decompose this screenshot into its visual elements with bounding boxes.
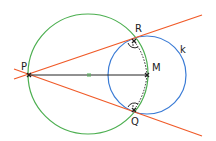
diagram-canvas: P R M Q k — [0, 0, 216, 141]
label-q: Q — [131, 117, 139, 127]
label-p: P — [21, 62, 27, 72]
label-r: R — [135, 24, 142, 34]
label-k: k — [180, 45, 186, 55]
geometry-figure — [0, 0, 216, 141]
point-r — [132, 39, 136, 43]
label-m: M — [152, 63, 161, 73]
